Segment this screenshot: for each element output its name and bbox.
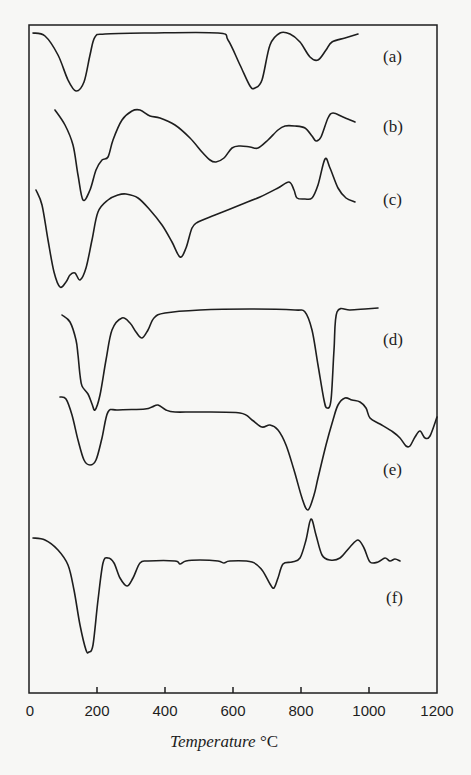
series-label-d: (d): [383, 330, 403, 350]
x-tick-label-0: 0: [26, 702, 34, 719]
series-label-c: (c): [383, 190, 402, 210]
x-tick-label-1200: 1200: [420, 702, 453, 719]
x-tick-label-600: 600: [220, 702, 245, 719]
curve-b: [55, 110, 355, 201]
thermal-analysis-figure: (a) (b) (c) (d) (e) (f) 0 200 400 600 80…: [0, 0, 471, 775]
x-axis-title-name: Temperature: [170, 732, 256, 751]
x-tick-label-1000: 1000: [352, 702, 385, 719]
plot-frame: [29, 25, 437, 693]
x-axis-ticks: [97, 687, 369, 693]
series-label-f: (f): [386, 588, 403, 608]
curve-d: [62, 308, 378, 410]
curve-a: [33, 32, 358, 91]
x-tick-label-800: 800: [288, 702, 313, 719]
series-label-a: (a): [383, 47, 402, 67]
x-axis-title-unit: °C: [260, 732, 278, 751]
x-tick-label-200: 200: [84, 702, 109, 719]
x-axis-title: Temperature °C: [170, 732, 278, 752]
curves-group: [33, 32, 437, 653]
series-label-b: (b): [383, 117, 403, 137]
curve-e: [60, 397, 437, 510]
series-label-e: (e): [383, 460, 402, 480]
x-tick-label-400: 400: [152, 702, 177, 719]
curve-c: [36, 158, 355, 287]
curve-f: [33, 519, 400, 653]
